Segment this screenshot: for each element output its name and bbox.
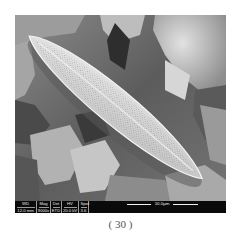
info-label: Spot [81, 201, 87, 208]
info-label: WD [17, 201, 35, 208]
info-cell-det: Det ETD [51, 201, 62, 213]
scale-bar-label: 10.0μm [151, 201, 173, 207]
info-cell-hv: HV 20.0 kV [62, 201, 79, 213]
scale-bar-line-right [173, 204, 198, 205]
info-value: 3.6 [81, 208, 87, 214]
info-label: Det [53, 201, 60, 208]
acquisition-parameters: WD 12.0 mm Mag 9000x Det ETD HV 20.0 kV … [15, 201, 89, 213]
scale-bar: 10.0μm [101, 201, 226, 207]
sem-micrograph [15, 15, 226, 201]
scale-bar-line-left [127, 204, 151, 205]
info-cell-spot: Spot 3.6 [79, 201, 89, 213]
sem-figure: WD 12.0 mm Mag 9000x Det ETD HV 20.0 kV … [15, 15, 226, 213]
figure-caption: ( 30 ) [0, 218, 241, 230]
sem-info-bar: WD 12.0 mm Mag 9000x Det ETD HV 20.0 kV … [15, 201, 226, 213]
info-cell-wd: WD 12.0 mm [15, 201, 37, 213]
info-label: HV [64, 201, 77, 208]
info-cell-mag: Mag 9000x [37, 201, 51, 213]
info-value: 12.0 mm [17, 208, 33, 214]
info-value: ETD [52, 208, 60, 214]
info-value: 20.0 kV [63, 208, 77, 214]
info-label: Mag [39, 201, 49, 208]
info-value: 9000x [38, 208, 49, 214]
